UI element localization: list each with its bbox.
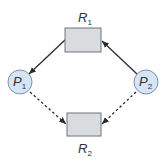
resource-box-r2 — [67, 113, 101, 136]
edges — [29, 40, 137, 124]
resource-label-r2: R2 — [78, 141, 92, 158]
edge-p2-to-r1 — [102, 41, 137, 74]
process-p1: P1 — [8, 70, 32, 94]
process-p2: P2 — [134, 70, 158, 94]
resource-r1: R1 — [65, 10, 101, 52]
edge-p1-to-r2 — [30, 92, 66, 124]
resource-box-r1 — [65, 28, 101, 52]
edge-r1-to-p1 — [29, 40, 65, 74]
resource-r2: R2 — [67, 113, 101, 158]
resource-label-r1: R1 — [78, 10, 92, 27]
resource-allocation-graph: R1 R2 P1 P2 — [0, 0, 165, 163]
edge-p2-to-r2 — [102, 92, 136, 124]
